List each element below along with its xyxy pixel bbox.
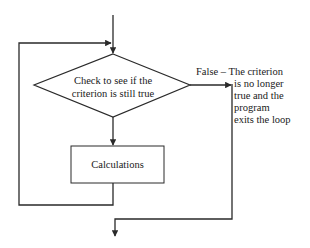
false-note-line-1: False – The criterion: [196, 66, 291, 78]
false-note-line-2: is no longer: [196, 78, 291, 90]
decision-label-line-2: criterion is still true: [48, 87, 178, 100]
false-branch-note: False – The criterion is no longer true …: [196, 66, 291, 126]
false-note-line-3: true and the: [196, 90, 291, 102]
calculations-label: Calculations: [71, 146, 164, 183]
calculations-text: Calculations: [91, 159, 144, 170]
flowchart-canvas: Check to see if the criterion is still t…: [0, 0, 310, 248]
false-note-line-4: program: [196, 102, 291, 114]
decision-label: Check to see if the criterion is still t…: [48, 74, 178, 100]
false-note-line-5: exits the loop: [196, 114, 291, 126]
decision-label-line-1: Check to see if the: [48, 74, 178, 87]
